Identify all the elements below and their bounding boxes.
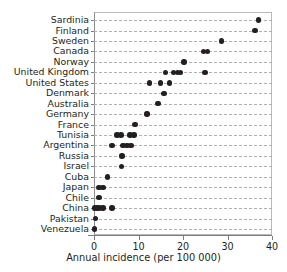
x-axis-tick-label: 40 (266, 242, 278, 252)
gridline (94, 93, 272, 94)
y-axis-label-united-states: United States (26, 78, 89, 87)
y-axis-label-japan: Japan (63, 183, 89, 192)
gridline (94, 125, 272, 126)
y-axis-label-norway: Norway (53, 57, 89, 66)
y-axis-label-canada: Canada (53, 47, 89, 56)
y-axis-label-china: China (62, 203, 89, 212)
y-axis-tick (91, 187, 94, 188)
y-axis-tick (91, 145, 94, 146)
y-axis-tick (91, 51, 94, 52)
y-axis-label-finland: Finland (56, 26, 90, 35)
data-point (132, 122, 137, 127)
y-axis-label-cuba: Cuba (65, 172, 89, 181)
y-axis-tick (91, 166, 94, 167)
y-axis-label-russia: Russia (59, 151, 89, 160)
data-point (131, 132, 136, 137)
y-axis-tick (91, 125, 94, 126)
x-axis-tick (139, 236, 140, 240)
data-point (167, 80, 172, 85)
y-axis-tick (91, 20, 94, 21)
y-axis-label-germany: Germany (46, 109, 89, 118)
y-axis-label-tunisia: Tunisia (57, 130, 89, 139)
gridline (94, 219, 272, 220)
y-axis-label-united-kingdom: United Kingdom (14, 68, 89, 77)
gridline (94, 198, 272, 199)
y-axis-tick (91, 93, 94, 94)
y-axis-tick (91, 83, 94, 84)
y-axis-label-sardinia: Sardinia (51, 15, 89, 24)
data-point (163, 70, 168, 75)
data-point (105, 174, 110, 179)
y-axis-tick (91, 177, 94, 178)
data-point (147, 80, 152, 85)
y-axis-tick (91, 135, 94, 136)
data-point (181, 59, 186, 64)
gridline (94, 51, 272, 52)
y-axis-tick (91, 198, 94, 199)
gridline (94, 187, 272, 188)
gridline (94, 20, 272, 21)
x-axis-tick (94, 236, 95, 240)
data-point (128, 143, 133, 148)
data-point (202, 70, 207, 75)
data-point (118, 132, 123, 137)
x-axis-tick-label: 30 (221, 242, 233, 252)
gridline (94, 83, 272, 84)
x-axis-tick-label: 0 (91, 242, 97, 252)
x-axis-tick (183, 236, 184, 240)
y-axis-label-israel: Israel (63, 162, 89, 171)
data-point (92, 226, 97, 231)
gridline (94, 104, 272, 105)
plot-area (94, 12, 272, 235)
data-point (161, 91, 166, 96)
gridline (94, 41, 272, 42)
data-point (100, 205, 105, 210)
data-point (252, 28, 257, 33)
data-point (158, 80, 163, 85)
data-point (100, 185, 105, 190)
y-axis-label-australia: Australia (48, 99, 89, 108)
y-axis-label-argentina: Argentina (43, 141, 89, 150)
incidence-dot-chart: SardiniaFinlandSwedenCanadaNorwayUnited … (0, 0, 287, 272)
y-axis-tick (91, 41, 94, 42)
x-axis-tick-label: 20 (177, 242, 189, 252)
data-point (144, 111, 149, 116)
data-point (96, 195, 101, 200)
y-axis-label-chile: Chile (66, 193, 89, 202)
data-point (119, 153, 124, 158)
y-axis-label-denmark: Denmark (46, 89, 89, 98)
y-axis-tick (91, 62, 94, 63)
data-point (109, 143, 114, 148)
y-axis-tick (91, 31, 94, 32)
gridline (94, 229, 272, 230)
gridline (94, 114, 272, 115)
x-axis-tick (228, 236, 229, 240)
y-axis-label-pakistan: Pakistan (50, 214, 89, 223)
x-axis: 010203040 (94, 235, 272, 236)
data-point (109, 205, 114, 210)
gridline (94, 208, 272, 209)
y-axis-tick (91, 156, 94, 157)
x-axis-tick (272, 236, 273, 240)
y-axis-label-france: France (58, 120, 89, 129)
x-axis-title: Annual incidence (per 100 000) (0, 252, 287, 263)
y-axis-tick (91, 72, 94, 73)
y-axis-tick (91, 114, 94, 115)
y-axis-tick (91, 104, 94, 105)
y-axis-label-sweden: Sweden (52, 36, 89, 45)
y-axis-label-venezuela: Venezuela (41, 224, 89, 233)
x-axis-tick-label: 10 (132, 242, 144, 252)
gridline (94, 177, 272, 178)
gridline (94, 31, 272, 32)
